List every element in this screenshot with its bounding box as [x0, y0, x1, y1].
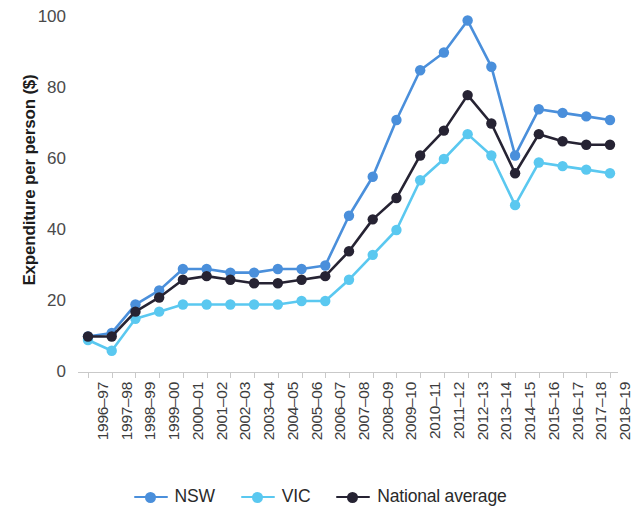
data-point [439, 47, 449, 57]
y-tick-label-80: 80 [20, 78, 66, 98]
data-point [107, 331, 117, 341]
x-tick-label-19: 2015–16 [545, 382, 563, 440]
legend-item-nsw[interactable]: NSW [134, 486, 215, 507]
data-point [486, 118, 496, 128]
data-point [344, 246, 354, 256]
data-point [296, 296, 306, 306]
data-point [557, 136, 567, 146]
x-tick-label-2: 1998–99 [141, 382, 159, 440]
x-tick-label-10: 2006–07 [331, 382, 349, 440]
series-nsw [83, 15, 615, 341]
data-point [368, 250, 378, 260]
data-point [581, 140, 591, 150]
data-point [130, 306, 140, 316]
data-point [344, 211, 354, 221]
data-point [605, 168, 615, 178]
plot-area [0, 0, 640, 390]
x-tick [207, 372, 208, 378]
x-tick-label-11: 2007–08 [355, 382, 373, 440]
legend-item-vic[interactable]: VIC [241, 486, 311, 507]
data-point [368, 214, 378, 224]
x-tick [396, 372, 397, 378]
x-tick [112, 372, 113, 378]
legend-item-national-average[interactable]: National average [336, 486, 506, 507]
legend-marker-icon [241, 490, 275, 504]
data-point [557, 108, 567, 118]
x-tick-label-15: 2011–12 [450, 382, 468, 439]
data-point [273, 278, 283, 288]
data-point [391, 193, 401, 203]
data-point [439, 154, 449, 164]
x-tick-label-9: 2005–06 [308, 382, 326, 440]
data-point [462, 90, 472, 100]
data-point [320, 260, 330, 270]
x-tick [278, 372, 279, 378]
x-tick-label-14: 2010–11 [426, 382, 444, 439]
x-tick-label-6: 2002–03 [236, 382, 254, 440]
x-tick-label-5: 2001–02 [213, 382, 231, 440]
x-tick [515, 372, 516, 378]
data-point [486, 150, 496, 160]
data-point [178, 264, 188, 274]
data-point [391, 115, 401, 125]
x-tick-label-13: 2009–10 [402, 382, 420, 440]
data-point [296, 264, 306, 274]
y-tick-label-60: 60 [20, 149, 66, 169]
expenditure-line-chart: Expenditure per person ($) 020406080100 … [0, 0, 640, 524]
x-tick [610, 372, 611, 378]
data-point [462, 129, 472, 139]
legend-label: National average [377, 486, 506, 507]
x-tick-label-8: 2004–05 [284, 382, 302, 440]
x-tick [444, 372, 445, 378]
data-point [225, 299, 235, 309]
data-point [415, 150, 425, 160]
data-point [510, 168, 520, 178]
data-point [201, 271, 211, 281]
y-tick-label-20: 20 [20, 291, 66, 311]
x-tick-label-0: 1996–97 [94, 382, 112, 440]
x-tick-label-12: 2008–09 [379, 382, 397, 440]
data-point [510, 200, 520, 210]
y-tick-label-40: 40 [20, 220, 66, 240]
data-point [581, 111, 591, 121]
data-point [296, 275, 306, 285]
x-tick [230, 372, 231, 378]
y-tick-label-100: 100 [20, 7, 66, 27]
data-point [178, 275, 188, 285]
legend-label: NSW [175, 486, 215, 507]
x-tick-label-16: 2012–13 [474, 382, 492, 440]
data-point [486, 61, 496, 71]
x-tick [159, 372, 160, 378]
data-point [154, 306, 164, 316]
x-tick [563, 372, 564, 378]
data-point [273, 264, 283, 274]
data-point [273, 299, 283, 309]
x-tick-label-22: 2018–19 [616, 382, 634, 440]
x-tick [88, 372, 89, 378]
series-line [88, 134, 610, 351]
x-tick-label-20: 2016–17 [569, 382, 587, 440]
series-line [88, 21, 610, 337]
x-tick [254, 372, 255, 378]
data-point [439, 125, 449, 135]
data-point [368, 172, 378, 182]
data-point [557, 161, 567, 171]
x-tick [420, 372, 421, 378]
data-point [107, 346, 117, 356]
data-point [249, 299, 259, 309]
data-point [320, 296, 330, 306]
data-point [178, 299, 188, 309]
x-tick-label-3: 1999–00 [165, 382, 183, 440]
x-tick [183, 372, 184, 378]
x-tick-label-21: 2017–18 [592, 382, 610, 440]
data-point [249, 278, 259, 288]
data-point [415, 65, 425, 75]
x-tick-label-18: 2014–15 [521, 382, 539, 440]
x-tick-label-1: 1997–98 [118, 382, 136, 440]
data-point [320, 271, 330, 281]
data-point [415, 175, 425, 185]
legend-marker-icon [134, 490, 168, 504]
data-point [154, 292, 164, 302]
x-tick-label-4: 2000–01 [189, 382, 207, 440]
x-tick [491, 372, 492, 378]
